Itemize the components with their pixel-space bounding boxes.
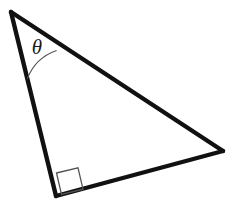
- figure-canvas: θ: [0, 0, 232, 211]
- triangle-diagram: θ: [0, 0, 232, 211]
- angle-label-theta: θ: [32, 35, 42, 59]
